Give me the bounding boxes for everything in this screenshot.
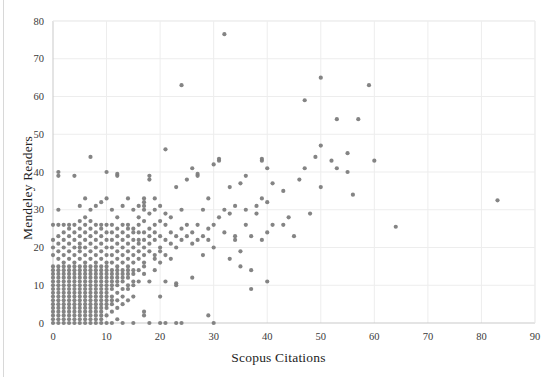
data-point xyxy=(94,230,98,234)
data-point xyxy=(104,253,108,257)
data-point xyxy=(115,317,119,321)
data-point xyxy=(131,261,135,265)
data-point xyxy=(142,313,146,317)
data-point xyxy=(163,238,167,242)
data-point xyxy=(83,306,87,310)
data-point xyxy=(233,204,237,208)
data-point xyxy=(72,230,76,234)
data-point xyxy=(99,242,103,246)
data-point xyxy=(110,283,114,287)
data-point xyxy=(163,223,167,227)
data-point xyxy=(115,257,119,261)
data-point xyxy=(56,272,60,276)
data-point xyxy=(99,268,103,272)
data-point xyxy=(99,302,103,306)
data-point xyxy=(115,215,119,219)
data-point xyxy=(56,279,60,283)
data-point xyxy=(137,238,141,242)
data-point xyxy=(62,264,66,268)
data-point xyxy=(72,302,76,306)
data-point xyxy=(56,302,60,306)
data-point xyxy=(158,234,162,238)
data-point xyxy=(78,287,82,291)
data-point xyxy=(131,321,135,325)
data-point xyxy=(121,261,125,265)
data-point xyxy=(88,249,92,253)
data-point xyxy=(212,223,216,227)
data-point xyxy=(51,321,55,325)
data-point xyxy=(110,208,114,212)
data-point xyxy=(126,223,130,227)
data-point xyxy=(94,264,98,268)
data-point xyxy=(158,261,162,265)
data-point xyxy=(78,227,82,231)
data-point xyxy=(62,287,66,291)
data-point xyxy=(72,306,76,310)
data-point xyxy=(142,245,146,249)
data-point xyxy=(62,272,66,276)
data-point xyxy=(72,245,76,249)
data-point xyxy=(94,261,98,265)
data-point xyxy=(121,253,125,257)
data-point xyxy=(83,287,87,291)
data-point xyxy=(126,268,130,272)
data-point xyxy=(94,272,98,276)
data-point xyxy=(72,310,76,314)
y-tick-label: 80 xyxy=(34,16,45,27)
data-point xyxy=(142,208,146,212)
data-point xyxy=(83,298,87,302)
data-point xyxy=(88,257,92,261)
data-point xyxy=(121,238,125,242)
data-point xyxy=(270,223,274,227)
data-point xyxy=(78,279,82,283)
data-point xyxy=(179,227,183,231)
data-point xyxy=(126,287,130,291)
data-point xyxy=(56,298,60,302)
data-point xyxy=(222,230,226,234)
data-point xyxy=(83,264,87,268)
x-tick-label: 90 xyxy=(530,331,541,342)
data-point xyxy=(51,276,55,280)
data-point xyxy=(94,302,98,306)
data-point xyxy=(88,313,92,317)
data-point xyxy=(179,83,183,87)
data-point xyxy=(51,302,55,306)
data-point xyxy=(88,242,92,246)
data-point xyxy=(153,230,157,234)
data-point xyxy=(56,313,60,317)
x-tick-label: 70 xyxy=(423,331,434,342)
data-point xyxy=(83,283,87,287)
data-point xyxy=(99,310,103,314)
data-point xyxy=(110,321,114,325)
data-point xyxy=(78,283,82,287)
data-point xyxy=(115,264,119,268)
data-point xyxy=(110,302,114,306)
data-point xyxy=(51,317,55,321)
data-point xyxy=(110,253,114,257)
data-point xyxy=(196,223,200,227)
y-tick-label: 20 xyxy=(34,242,45,253)
data-point xyxy=(142,196,146,200)
data-point xyxy=(88,155,92,159)
data-point xyxy=(99,283,103,287)
data-point xyxy=(260,238,264,242)
data-point xyxy=(62,268,66,272)
data-point xyxy=(110,261,114,265)
data-point xyxy=(297,177,301,181)
data-point xyxy=(99,291,103,295)
data-point xyxy=(78,264,82,268)
data-point xyxy=(249,234,253,238)
data-point xyxy=(131,208,135,212)
data-point xyxy=(62,238,66,242)
data-point xyxy=(56,257,60,261)
data-point xyxy=(319,185,323,189)
gridlines-group xyxy=(53,21,535,323)
data-point xyxy=(83,276,87,280)
data-point xyxy=(67,257,71,261)
data-point xyxy=(137,279,141,283)
data-point xyxy=(163,279,167,283)
data-point xyxy=(72,268,76,272)
data-point xyxy=(495,198,499,202)
data-point xyxy=(121,321,125,325)
data-point xyxy=(56,264,60,268)
